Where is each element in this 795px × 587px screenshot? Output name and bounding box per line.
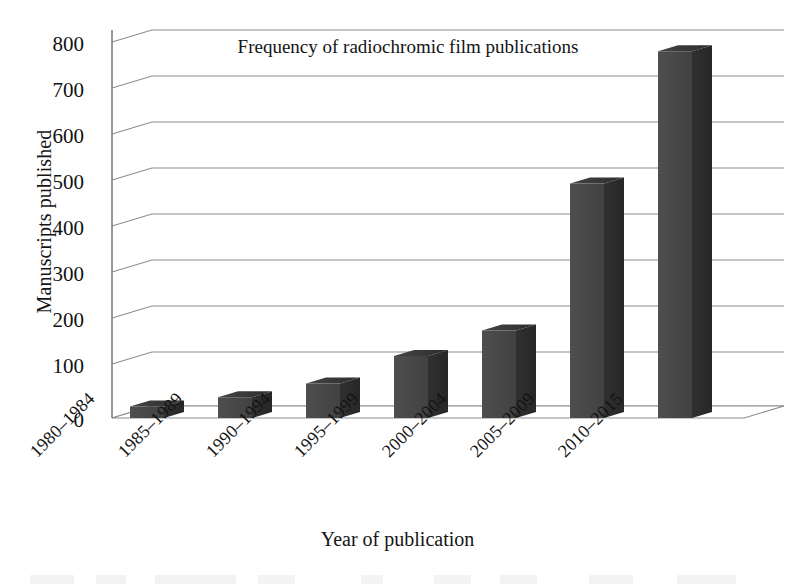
chart-title: Frequency of radiochromic film publicati… bbox=[198, 36, 618, 58]
cut-off-caption-strip bbox=[30, 575, 765, 584]
bar-chart-figure: Manuscripts published 800 700 600 500 40… bbox=[0, 0, 795, 587]
x-axis-title: Year of publication bbox=[0, 528, 795, 551]
bar-2010-2015[interactable] bbox=[658, 45, 712, 418]
bar-2005-2009[interactable] bbox=[570, 177, 624, 418]
plot-area bbox=[0, 0, 795, 470]
